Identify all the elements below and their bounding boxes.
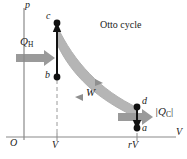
state-label-a: a xyxy=(142,123,147,133)
state-point-c xyxy=(54,20,61,27)
work-shaded-region xyxy=(57,26,138,118)
heat-in-label: QH xyxy=(20,36,33,48)
y-axis-label: p xyxy=(25,0,30,10)
flow-arrow-lower xyxy=(75,94,83,101)
heat-in-subscript: H xyxy=(28,40,33,49)
x-axis-label: V xyxy=(176,127,182,137)
state-label-b: b xyxy=(45,70,50,80)
heat-out-symbol: |Q xyxy=(155,105,166,117)
otto-cycle-diagram: p V O V rV c b d a QH |QC| W Otto cycle xyxy=(0,0,187,159)
state-label-d: d xyxy=(142,96,147,106)
state-point-a xyxy=(134,125,141,132)
heat-in-arrow xyxy=(16,50,55,66)
heat-out-bar: | xyxy=(171,105,173,117)
state-point-b xyxy=(54,74,61,81)
diagram-title: Otto cycle xyxy=(100,20,141,30)
state-point-d xyxy=(134,104,141,111)
heat-in-symbol: Q xyxy=(20,35,28,47)
state-label-c: c xyxy=(46,11,50,21)
heat-out-label: |QC| xyxy=(155,106,173,118)
work-label: W xyxy=(86,87,95,98)
adiabat-cd-curve xyxy=(57,26,138,108)
origin-label: O xyxy=(10,138,17,148)
x-tick-label-V: V xyxy=(52,140,58,150)
pv-diagram-canvas xyxy=(0,0,187,159)
x-tick-label-rV: rV xyxy=(128,140,138,150)
